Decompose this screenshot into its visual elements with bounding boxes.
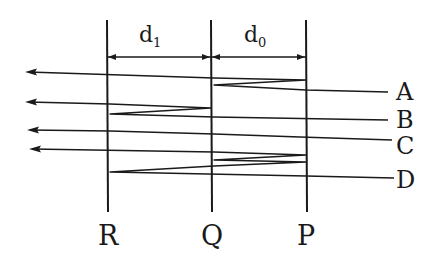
- dimension-label-d1: d1: [139, 24, 161, 49]
- ray-label-d: D: [396, 168, 415, 192]
- ray-b: [28, 102, 388, 120]
- plate-label-q: Q: [201, 222, 223, 249]
- diagram-canvas: d1 d0 A B C D R Q P: [0, 0, 440, 258]
- arrowhead-icon: [202, 54, 210, 60]
- plate-label-p: P: [297, 222, 315, 249]
- ray-label-a: A: [396, 80, 413, 104]
- arrowhead-icon: [297, 54, 305, 60]
- plate-q: [211, 20, 212, 212]
- arrowhead-icon: [108, 54, 116, 60]
- plate-label-r: R: [98, 222, 118, 249]
- ray-label-b: B: [396, 108, 414, 132]
- plate-p: [306, 20, 307, 212]
- ray-a: [28, 72, 388, 92]
- ray-label-c: C: [396, 134, 414, 158]
- ray-d: [32, 149, 394, 178]
- arrowhead-icon: [212, 54, 220, 60]
- dimension-label-d0: d0: [244, 24, 266, 49]
- plate-r: [107, 20, 108, 212]
